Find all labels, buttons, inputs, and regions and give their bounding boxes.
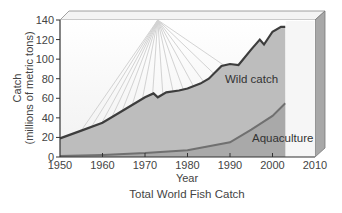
y-tick-label: 60 <box>42 92 54 104</box>
y-tick-label: 20 <box>42 131 54 143</box>
y-tick-label: 40 <box>42 112 54 124</box>
fish-catch-chart: 020406080100120140 195019601970198019902… <box>0 0 342 213</box>
y-axis-subtitle: (millions of metric tons) <box>23 31 35 144</box>
x-tick-label: 1950 <box>48 159 72 171</box>
y-axis-ticks: 020406080100120140 <box>36 14 60 163</box>
y-tick-label: 140 <box>36 14 54 26</box>
x-tick-label: 1970 <box>133 159 157 171</box>
x-tick-label: 1990 <box>218 159 242 171</box>
x-tick-label: 2010 <box>303 159 327 171</box>
x-tick-label: 1960 <box>90 159 114 171</box>
y-axis-title: Catch <box>11 74 23 103</box>
wild-catch-label: Wild catch <box>225 73 278 85</box>
aquaculture-label: Aquaculture <box>252 132 313 144</box>
chart-title: Total World Fish Catch <box>129 188 244 200</box>
x-tick-label: 1980 <box>175 159 199 171</box>
y-tick-label: 120 <box>36 34 54 46</box>
x-tick-label: 2000 <box>260 159 284 171</box>
x-axis-title: Year <box>176 172 199 184</box>
y-tick-label: 80 <box>42 73 54 85</box>
y-tick-label: 100 <box>36 53 54 65</box>
